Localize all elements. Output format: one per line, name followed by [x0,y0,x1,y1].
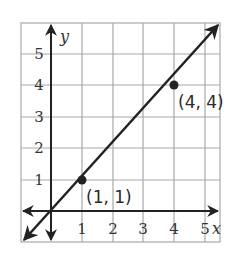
svg-text:4: 4 [169,220,179,238]
svg-text:4: 4 [34,76,44,94]
svg-text:2: 2 [108,220,118,238]
svg-text:5: 5 [200,220,210,238]
svg-text:1: 1 [34,171,44,189]
y-tick-labels: 1 2 3 4 5 [34,45,44,189]
x-axis-label: x [212,219,221,238]
svg-text:1: 1 [77,220,87,238]
point-4-4 [170,81,179,90]
point-label-1-1: (1, 1) [86,187,132,207]
line-y-equals-x [24,25,218,240]
point-label-4-4: (4, 4) [178,92,224,112]
x-tick-labels: 1 2 3 4 5 [77,220,210,238]
point-1-1 [78,176,87,185]
svg-text:3: 3 [34,108,44,126]
svg-text:5: 5 [34,45,44,63]
svg-text:2: 2 [34,139,44,157]
coordinate-plane: 1 2 3 4 5 1 2 3 4 5 y x (1, 1) (4, 4) [0,0,249,261]
y-axis-label: y [59,27,70,46]
svg-text:3: 3 [138,220,148,238]
